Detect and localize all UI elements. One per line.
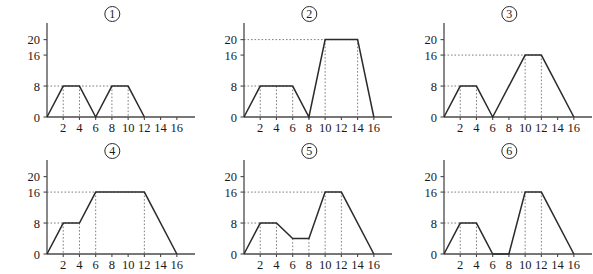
x-tick-label-8: 8 [506,258,512,272]
chart-panel-5: 0816202468101214165 [197,137,394,274]
chart-panel-6: 0816202468101214166 [397,137,593,274]
x-tick-label-14: 14 [154,258,167,272]
y-tick-label-8: 8 [431,80,437,94]
x-tick-label-16: 16 [368,121,381,135]
x-tick-label-4: 4 [76,121,83,135]
x-tick-label-4: 4 [273,121,280,135]
x-tick-label-16: 16 [568,121,581,135]
x-tick-label-6: 6 [93,121,99,135]
x-tick-label-2: 2 [257,121,263,135]
x-tick-label-10: 10 [122,121,135,135]
data-curve [47,86,144,117]
y-tick-label-20: 20 [225,33,238,47]
chart-cell-3: 0816202468101214163 [397,0,593,137]
x-tick-label-8: 8 [306,121,312,135]
x-tick-label-2: 2 [60,121,66,135]
panel-label-text: 4 [109,144,115,158]
y-tick-label-8: 8 [431,217,437,231]
x-tick-label-6: 6 [290,258,296,272]
y-tick-label-16: 16 [425,49,438,63]
y-tick-label-20: 20 [425,33,438,47]
data-curve [47,192,177,254]
chart-panel-2: 0816202468101214162 [197,0,394,137]
x-tick-label-16: 16 [368,258,381,272]
panel-label-text: 2 [306,7,312,21]
y-tick-label-20: 20 [425,170,438,184]
y-tick-label-0: 0 [231,111,237,125]
x-tick-label-12: 12 [335,258,348,272]
y-tick-label-8: 8 [34,217,40,231]
x-tick-label-6: 6 [490,258,496,272]
x-tick-label-4: 4 [473,258,480,272]
x-tick-label-4: 4 [473,121,480,135]
chart-panel-4: 0816202468101214164 [0,137,197,274]
x-tick-label-16: 16 [171,121,184,135]
panel-label-text: 3 [506,7,512,21]
data-curve [244,40,374,117]
x-tick-label-8: 8 [109,121,115,135]
y-tick-label-0: 0 [231,248,237,262]
x-tick-label-14: 14 [551,121,564,135]
x-tick-label-10: 10 [519,121,532,135]
x-tick-label-14: 14 [551,258,564,272]
x-tick-label-14: 14 [351,121,364,135]
x-tick-label-14: 14 [351,258,364,272]
data-curve [444,192,574,254]
x-tick-label-2: 2 [457,121,463,135]
y-tick-label-20: 20 [225,170,238,184]
y-tick-label-0: 0 [431,111,437,125]
x-tick-label-8: 8 [506,121,512,135]
y-tick-label-16: 16 [28,49,41,63]
x-tick-label-10: 10 [519,258,532,272]
x-tick-label-12: 12 [138,258,151,272]
x-tick-label-6: 6 [93,258,99,272]
y-tick-label-20: 20 [28,170,41,184]
x-tick-label-12: 12 [335,121,348,135]
y-tick-label-8: 8 [34,80,40,94]
y-tick-label-8: 8 [231,80,237,94]
chart-grid: 0816202468101214161081620246810121416208… [0,0,593,274]
x-tick-label-16: 16 [171,258,184,272]
x-tick-label-4: 4 [273,258,280,272]
chart-cell-5: 0816202468101214165 [197,137,397,274]
x-tick-label-12: 12 [138,121,151,135]
y-tick-label-0: 0 [34,111,40,125]
x-tick-label-12: 12 [535,258,548,272]
data-curve [244,192,374,254]
x-tick-label-14: 14 [154,121,167,135]
chart-cell-4: 0816202468101214164 [0,137,197,274]
x-tick-label-10: 10 [319,258,332,272]
x-tick-label-2: 2 [457,258,463,272]
y-tick-label-20: 20 [28,33,41,47]
y-tick-label-16: 16 [425,186,438,200]
x-tick-label-4: 4 [76,258,83,272]
y-tick-label-0: 0 [431,248,437,262]
y-tick-label-16: 16 [225,186,238,200]
chart-cell-2: 0816202468101214162 [197,0,397,137]
x-tick-label-10: 10 [122,258,135,272]
data-curve [444,55,574,117]
chart-cell-1: 0816202468101214161 [0,0,197,137]
y-tick-label-16: 16 [225,49,238,63]
x-tick-label-12: 12 [535,121,548,135]
chart-cell-6: 0816202468101214166 [397,137,593,274]
x-tick-label-8: 8 [306,258,312,272]
x-tick-label-10: 10 [319,121,332,135]
x-tick-label-8: 8 [109,258,115,272]
panel-label-text: 6 [506,144,512,158]
y-tick-label-0: 0 [34,248,40,262]
x-tick-label-2: 2 [60,258,66,272]
chart-panel-1: 0816202468101214161 [0,0,197,137]
x-tick-label-6: 6 [490,121,496,135]
x-tick-label-16: 16 [568,258,581,272]
chart-panel-3: 0816202468101214163 [397,0,593,137]
y-tick-label-16: 16 [28,186,41,200]
y-tick-label-8: 8 [231,217,237,231]
panel-label-text: 1 [109,7,115,21]
panel-label-text: 5 [306,144,312,158]
x-tick-label-2: 2 [257,258,263,272]
x-tick-label-6: 6 [290,121,296,135]
